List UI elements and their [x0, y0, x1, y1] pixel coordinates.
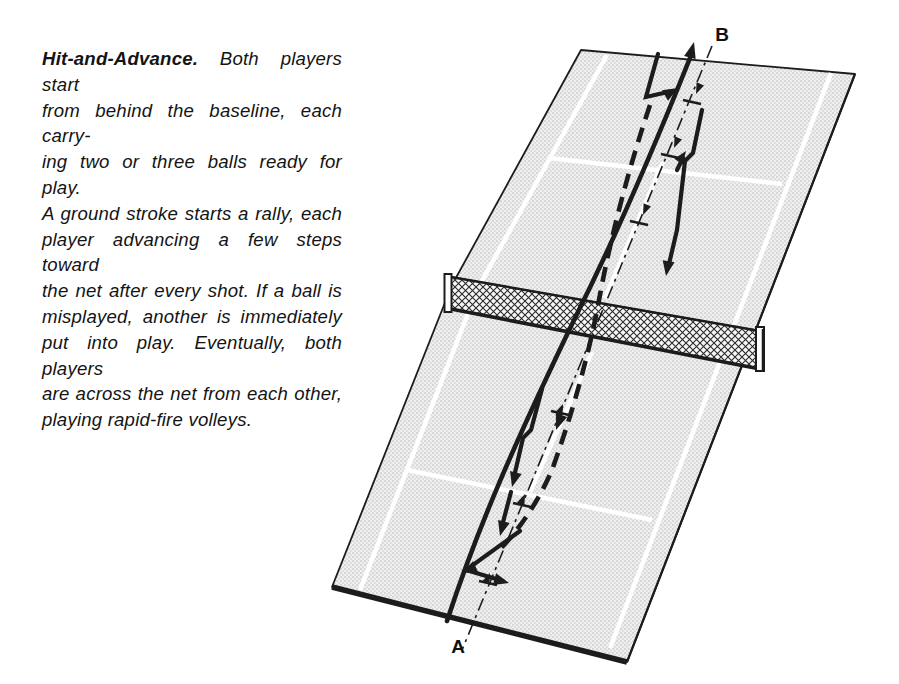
book-figure-page: Hit-and-Advance. Both players start from… [0, 0, 899, 684]
net-post-left [445, 274, 452, 312]
ball-path-arrowhead-top [684, 40, 700, 59]
court-surface [332, 50, 855, 662]
label-player-a: A [451, 636, 465, 657]
label-player-b: B [715, 24, 729, 45]
tennis-court-diagram: B A [0, 0, 899, 684]
